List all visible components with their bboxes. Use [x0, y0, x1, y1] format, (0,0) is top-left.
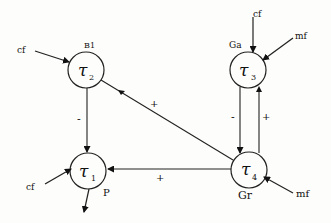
- node-tau1: τ 1 P: [70, 153, 110, 198]
- edge-sign: -: [77, 113, 81, 126]
- edge-sign: +: [156, 172, 164, 183]
- input-cf-tau3: cf: [253, 9, 262, 52]
- edge-tau2-tau1: -: [77, 88, 87, 152]
- node-tau1-tag: P: [103, 187, 110, 198]
- input-label: cf: [17, 45, 26, 55]
- input-label: cf: [26, 182, 35, 192]
- edge-sign: +: [150, 98, 158, 109]
- input-label: mf: [295, 31, 308, 41]
- node-tau1-subscript: 1: [91, 174, 96, 183]
- node-tau4: τ 4 Gr: [231, 152, 267, 202]
- input-label: cf: [253, 9, 262, 19]
- output-tau1: [84, 189, 89, 212]
- node-tau2-tag: B1: [84, 41, 95, 50]
- edge-sign: +: [262, 111, 270, 122]
- input-cf-tau2: cf: [17, 45, 69, 62]
- input-label: mf: [296, 188, 310, 199]
- edge-tau4-tau3: +: [256, 86, 270, 153]
- edge-sign: -: [231, 111, 235, 124]
- input-mf-tau4: mf: [264, 177, 310, 199]
- edge-tau4-tau2: +: [101, 80, 233, 160]
- edge-tau4-tau1: +: [108, 169, 231, 183]
- node-tau3: τ 3 Ga: [229, 40, 266, 88]
- node-tau3-subscript: 3: [251, 73, 256, 82]
- input-cf-tau1: cf: [26, 169, 71, 192]
- node-tau4-tag: Gr: [238, 189, 253, 202]
- input-mf-tau3: mf: [263, 31, 308, 60]
- node-tau1-symbol: τ: [79, 161, 89, 181]
- node-tau4-subscript: 4: [252, 173, 257, 182]
- node-tau2-symbol: τ: [78, 60, 88, 80]
- node-tau4-symbol: τ: [241, 159, 251, 179]
- causal-loop-diagram: τ 2 B1 τ 1 P τ 3 Ga τ 4 Gr - + + -: [0, 0, 331, 223]
- edge-tau3-tau4: -: [231, 87, 240, 153]
- node-tau3-tag: Ga: [229, 40, 242, 50]
- node-tau2-subscript: 2: [89, 73, 94, 82]
- node-tau3-symbol: τ: [239, 60, 249, 80]
- node-tau2: τ 2 B1: [68, 41, 104, 88]
- diagram-canvas: τ 2 B1 τ 1 P τ 3 Ga τ 4 Gr - + + -: [0, 0, 331, 223]
